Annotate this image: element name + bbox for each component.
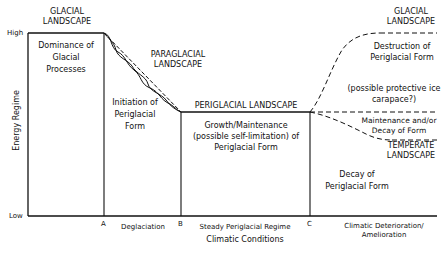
point-a-label: A: [101, 220, 106, 228]
point-c-label: C: [307, 220, 312, 228]
temperate-landscape-label: TEMPERATE LANDSCAPE: [382, 141, 440, 161]
dominance-of-glacial-processes-label: Dominance of Glacial Processes: [34, 40, 98, 76]
y-high-label: High: [7, 29, 23, 37]
x-axis-title: Climatic Conditions: [186, 235, 304, 245]
ice-carapace-label: (possible protective ice carapace?): [346, 83, 442, 105]
initiation-label: Initiation of Periglacial Form: [106, 97, 164, 133]
glacial-landscape-right-label: GLACIAL LANDSCAPE: [382, 7, 440, 27]
glacial-landscape-left-label: GLACIAL LANDSCAPE: [38, 7, 96, 27]
decay-label: Decay of Periglacial Form: [322, 169, 392, 193]
y-axis-title: Energy Regime: [12, 89, 21, 153]
growth-maintenance-label: Growth/Maintenance (possible self-limita…: [190, 120, 302, 153]
maintenance-decay-label: Maintenance and/or Decay of Form: [356, 116, 442, 136]
periglacial-landscape-label: PERIGLACIAL LANDSCAPE: [188, 101, 304, 111]
phase-deglaciation: Deglaciation: [112, 222, 174, 232]
phase-steady-periglacial: Steady Periglacial Regime: [186, 222, 304, 232]
phase-climatic-deterioration: Climatic Deterioration/ Amelioration: [336, 222, 432, 240]
point-b-label: B: [178, 220, 183, 228]
y-low-label: Low: [9, 212, 23, 220]
destruction-label: Destruction of Periglacial Form: [362, 41, 442, 63]
paraglacial-landscape-label: PARAGLACIAL LANDSCAPE: [146, 50, 210, 70]
